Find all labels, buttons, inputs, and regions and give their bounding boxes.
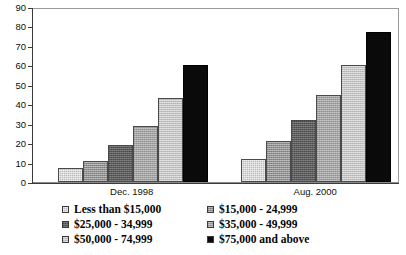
bar bbox=[341, 65, 366, 182]
plot-area bbox=[32, 8, 399, 183]
legend-swatch-icon bbox=[62, 236, 69, 243]
y-axis-tick-label: 80 bbox=[2, 23, 26, 33]
legend-swatch-icon bbox=[207, 221, 214, 228]
legend-item-label: $50,000 - 74,999 bbox=[74, 234, 153, 246]
group-label-1: Dec. 1998 bbox=[72, 187, 192, 197]
legend-item[interactable]: $25,000 - 34,999 bbox=[62, 217, 161, 232]
legend-item-label: $75,000 and above bbox=[219, 234, 309, 246]
bar bbox=[58, 168, 83, 182]
group-label-2: Aug. 2000 bbox=[255, 187, 375, 197]
bar bbox=[366, 32, 391, 182]
legend-item[interactable]: Less than $15,000 bbox=[62, 202, 161, 217]
bar bbox=[183, 65, 208, 182]
bar bbox=[83, 161, 108, 182]
bar bbox=[158, 98, 183, 182]
bar bbox=[316, 95, 341, 183]
bar bbox=[241, 159, 266, 182]
x-axis-line bbox=[32, 183, 399, 184]
y-axis-tick-label: 60 bbox=[2, 62, 26, 72]
y-axis-tick-label: 20 bbox=[2, 139, 26, 149]
y-axis-tick-label: 0 bbox=[2, 178, 26, 188]
y-axis-tick-label: 30 bbox=[2, 120, 26, 130]
legend-item[interactable]: $50,000 - 74,999 bbox=[62, 232, 161, 247]
y-axis-tick-label: 10 bbox=[2, 159, 26, 169]
bar bbox=[291, 120, 316, 182]
bar bbox=[133, 126, 158, 182]
y-axis-tick-label: 70 bbox=[2, 42, 26, 52]
legend-swatch-icon bbox=[62, 206, 69, 213]
legend-column-right: $15,000 - 24,999$35,000 - 49,999$75,000 … bbox=[207, 202, 309, 247]
y-axis-tick-label: 90 bbox=[2, 3, 26, 13]
legend-item[interactable]: $35,000 - 49,999 bbox=[207, 217, 309, 232]
bar bbox=[108, 145, 133, 182]
y-axis-line bbox=[32, 8, 33, 184]
legend-column-left: Less than $15,000$25,000 - 34,999$50,000… bbox=[62, 202, 161, 247]
legend-item[interactable]: $75,000 and above bbox=[207, 232, 309, 247]
legend-item-label: $25,000 - 34,999 bbox=[74, 219, 153, 231]
y-axis-tick-label: 40 bbox=[2, 100, 26, 110]
legend-item-label: $15,000 - 24,999 bbox=[219, 204, 298, 216]
bar bbox=[266, 141, 291, 182]
y-axis-tick-label: 50 bbox=[2, 81, 26, 91]
chart-legend: Less than $15,000$25,000 - 34,999$50,000… bbox=[0, 202, 406, 254]
bar-chart-figure: 9080706050403020100 Dec. 1998Aug. 2000 L… bbox=[0, 0, 406, 255]
legend-item-label: $35,000 - 49,999 bbox=[219, 219, 298, 231]
legend-swatch-icon bbox=[207, 236, 214, 243]
legend-swatch-icon bbox=[207, 206, 214, 213]
legend-item-label: Less than $15,000 bbox=[74, 204, 161, 216]
legend-item[interactable]: $15,000 - 24,999 bbox=[207, 202, 309, 217]
legend-swatch-icon bbox=[62, 221, 69, 228]
